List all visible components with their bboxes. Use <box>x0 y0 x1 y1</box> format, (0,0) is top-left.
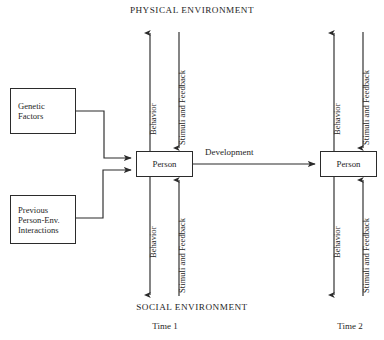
label-time1-lower-behavior: Behavior <box>148 226 158 258</box>
physical-environment-title: PHYSICAL ENVIRONMENT <box>0 5 384 16</box>
box-genetic-factors: Genetic Factors <box>10 88 76 134</box>
label-time1-upper-stimuli-and-feedback: Stimuli and Feedback <box>177 70 187 145</box>
label-time2-lower-behavior: Behavior <box>332 226 342 258</box>
development-label: Development <box>205 147 254 158</box>
genetic-factors-line-2: Factors <box>18 111 43 121</box>
diagram-canvas: PHYSICAL ENVIRONMENT SOCIAL ENVIRONMENT … <box>0 0 384 340</box>
previous-interactions-line-3: Interactions <box>18 225 59 235</box>
label-time2-upper-behavior: Behavior <box>332 103 342 135</box>
box-previous-person-env-interactions: Previous Person-Env. Interactions <box>10 195 76 244</box>
label-time1-lower-stimuli-and-feedback: Stimuli and Feedback <box>177 218 187 293</box>
box-person-time-2: Person <box>320 151 377 177</box>
connector-previous-to-person <box>75 170 131 218</box>
person-time-1-label: Person <box>153 159 177 169</box>
label-time1-upper-behavior: Behavior <box>148 103 158 135</box>
person-time-2-label: Person <box>337 159 361 169</box>
label-time2-upper-stimuli-and-feedback: Stimuli and Feedback <box>361 70 371 145</box>
time-2-label: Time 2 <box>315 321 384 332</box>
time-1-label: Time 1 <box>130 321 200 332</box>
genetic-factors-line-1: Genetic <box>18 101 45 111</box>
label-time2-lower-stimuli-and-feedback: Stimuli and Feedback <box>361 218 371 293</box>
connector-genetic-to-person <box>75 111 131 158</box>
social-environment-title: SOCIAL ENVIRONMENT <box>0 302 384 313</box>
box-person-time-1: Person <box>136 151 193 177</box>
previous-interactions-line-1: Previous <box>18 205 48 215</box>
previous-interactions-line-2: Person-Env. <box>18 215 60 225</box>
